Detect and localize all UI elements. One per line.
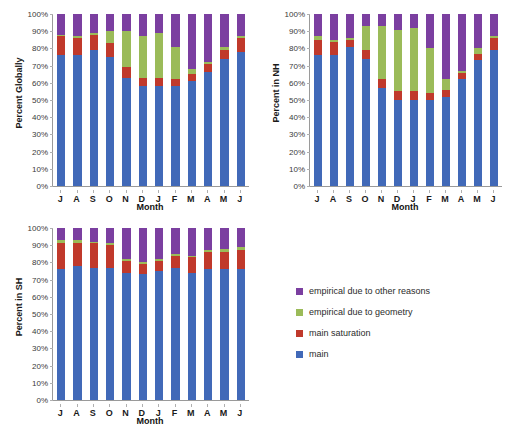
bar-segment[interactable] — [188, 257, 196, 272]
bar-segment[interactable] — [220, 252, 228, 269]
bar-segment[interactable] — [362, 59, 370, 186]
bar-segment[interactable] — [90, 35, 98, 50]
stacked-bar[interactable] — [73, 228, 81, 400]
bar-segment[interactable] — [139, 14, 147, 36]
bar-segment[interactable] — [410, 91, 418, 100]
bar-segment[interactable] — [220, 228, 228, 249]
bar-segment[interactable] — [330, 55, 338, 186]
bar-segment[interactable] — [122, 273, 130, 400]
stacked-bar[interactable] — [314, 14, 322, 186]
stacked-bar[interactable] — [346, 14, 354, 186]
bar-segment[interactable] — [237, 52, 245, 186]
legend-item[interactable]: empirical due to other reasons — [296, 286, 496, 297]
stacked-bar[interactable] — [220, 228, 228, 400]
stacked-bar[interactable] — [362, 14, 370, 186]
bar-segment[interactable] — [378, 88, 386, 186]
bar-segment[interactable] — [220, 59, 228, 186]
bar-segment[interactable] — [362, 14, 370, 26]
bar-segment[interactable] — [378, 14, 386, 26]
bar-segment[interactable] — [442, 90, 450, 97]
bar-segment[interactable] — [330, 42, 338, 56]
bar-segment[interactable] — [106, 57, 114, 186]
bar-segment[interactable] — [171, 47, 179, 80]
bar-segment[interactable] — [237, 14, 245, 36]
stacked-bar[interactable] — [106, 228, 114, 400]
stacked-bar[interactable] — [90, 14, 98, 186]
bar-segment[interactable] — [139, 228, 147, 262]
bar-segment[interactable] — [474, 54, 482, 61]
bar-segment[interactable] — [204, 269, 212, 400]
bar-segment[interactable] — [106, 268, 114, 400]
bar-segment[interactable] — [474, 14, 482, 48]
stacked-bar[interactable] — [458, 14, 466, 186]
bar-segment[interactable] — [122, 67, 130, 77]
bar-segment[interactable] — [57, 36, 65, 55]
stacked-bar[interactable] — [204, 228, 212, 400]
stacked-bar[interactable] — [90, 228, 98, 400]
bar-segment[interactable] — [57, 243, 65, 269]
bar-segment[interactable] — [122, 14, 130, 31]
bar-segment[interactable] — [73, 55, 81, 186]
bar-segment[interactable] — [73, 228, 81, 240]
bar-segment[interactable] — [458, 14, 466, 71]
bar-segment[interactable] — [220, 14, 228, 47]
bar-segment[interactable] — [188, 14, 196, 69]
bar-segment[interactable] — [410, 28, 418, 92]
stacked-bar[interactable] — [171, 14, 179, 186]
bar-segment[interactable] — [346, 47, 354, 186]
stacked-bar[interactable] — [474, 14, 482, 186]
bar-segment[interactable] — [394, 100, 402, 186]
bar-segment[interactable] — [171, 79, 179, 86]
bar-segment[interactable] — [171, 228, 179, 254]
stacked-bar[interactable] — [122, 14, 130, 186]
bar-segment[interactable] — [426, 100, 434, 186]
stacked-bar[interactable] — [330, 14, 338, 186]
bar-segment[interactable] — [73, 243, 81, 265]
bar-segment[interactable] — [490, 50, 498, 186]
stacked-bar[interactable] — [139, 14, 147, 186]
stacked-bar[interactable] — [442, 14, 450, 186]
bar-segment[interactable] — [458, 73, 466, 80]
bar-segment[interactable] — [90, 268, 98, 400]
bar-segment[interactable] — [122, 261, 130, 273]
stacked-bar[interactable] — [394, 14, 402, 186]
bar-segment[interactable] — [90, 243, 98, 267]
stacked-bar[interactable] — [155, 228, 163, 400]
bar-segment[interactable] — [346, 14, 354, 38]
bar-segment[interactable] — [394, 14, 402, 29]
bar-segment[interactable] — [204, 72, 212, 186]
bar-segment[interactable] — [237, 228, 245, 247]
bar-segment[interactable] — [378, 79, 386, 88]
bar-segment[interactable] — [314, 14, 322, 36]
stacked-bar[interactable] — [410, 14, 418, 186]
bar-segment[interactable] — [394, 30, 402, 92]
bar-segment[interactable] — [442, 14, 450, 79]
bar-segment[interactable] — [426, 93, 434, 100]
bar-segment[interactable] — [155, 78, 163, 87]
bar-segment[interactable] — [106, 228, 114, 243]
bar-segment[interactable] — [458, 79, 466, 186]
bar-segment[interactable] — [139, 78, 147, 87]
bar-segment[interactable] — [106, 245, 114, 267]
stacked-bar[interactable] — [155, 14, 163, 186]
bar-segment[interactable] — [122, 31, 130, 67]
bar-segment[interactable] — [237, 38, 245, 52]
bar-segment[interactable] — [106, 31, 114, 43]
stacked-bar[interactable] — [220, 14, 228, 186]
bar-segment[interactable] — [410, 100, 418, 186]
bar-segment[interactable] — [410, 14, 418, 28]
bar-segment[interactable] — [220, 269, 228, 400]
stacked-bar[interactable] — [171, 228, 179, 400]
bar-segment[interactable] — [155, 261, 163, 271]
bar-segment[interactable] — [155, 33, 163, 78]
bar-segment[interactable] — [155, 14, 163, 33]
bar-segment[interactable] — [106, 43, 114, 57]
bar-segment[interactable] — [188, 81, 196, 186]
bar-segment[interactable] — [171, 86, 179, 186]
bar-segment[interactable] — [474, 60, 482, 186]
stacked-bar[interactable] — [237, 228, 245, 400]
bar-segment[interactable] — [442, 79, 450, 89]
bar-segment[interactable] — [90, 228, 98, 242]
bar-segment[interactable] — [346, 40, 354, 47]
bar-segment[interactable] — [442, 97, 450, 186]
